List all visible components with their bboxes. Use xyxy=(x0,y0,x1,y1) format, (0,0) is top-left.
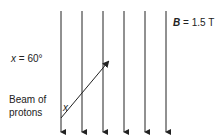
angle-value: = 60° xyxy=(16,53,43,64)
field-strength-label: B = 1.5 T xyxy=(173,17,214,28)
field-value: = 1.5 T xyxy=(180,17,214,28)
beam-label-line2: protons xyxy=(9,107,42,118)
angle-marker: x xyxy=(63,102,68,113)
proton-beam-arrow xyxy=(61,62,108,118)
angle-value-label: x = 60° xyxy=(11,53,43,64)
beam-label-line1: Beam of xyxy=(9,94,46,105)
